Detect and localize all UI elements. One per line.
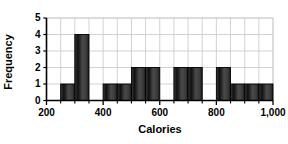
y-axis-title-text: Frequency xyxy=(2,33,14,90)
bar: 550-600: 2 xyxy=(146,68,160,101)
x-tick-label: 1,000 xyxy=(260,107,285,118)
bar-rect xyxy=(174,68,188,101)
x-axis-title-text: Calories xyxy=(138,123,181,135)
y-axis-title: Frequency xyxy=(2,33,14,90)
x-tick-label: 800 xyxy=(208,107,225,118)
bar: 950-1000: 1 xyxy=(259,84,273,101)
bar: 500-550: 2 xyxy=(131,68,145,101)
bar: 250-300: 1 xyxy=(61,84,75,101)
x-tick-label: 200 xyxy=(38,107,55,118)
bar: 900-950: 1 xyxy=(245,84,259,101)
bar: 450-500: 1 xyxy=(117,84,131,101)
bar: 850-900: 1 xyxy=(231,84,245,101)
y-tick-label: 1 xyxy=(35,78,41,89)
histogram-chart: Frequency 250-300: 1300-350: 4400-450: 1… xyxy=(0,0,288,144)
bar-rect xyxy=(146,68,160,101)
chart-canvas: Frequency 250-300: 1300-350: 4400-450: 1… xyxy=(0,0,288,144)
y-tick-label: 0 xyxy=(35,95,41,106)
y-tick-label: 5 xyxy=(35,12,41,23)
y-tick-label: 3 xyxy=(35,45,41,56)
y-tick-label: 2 xyxy=(35,62,41,73)
bar-rect xyxy=(231,84,245,101)
bar: 700-750: 2 xyxy=(188,68,202,101)
bar-rect xyxy=(245,84,259,101)
y-tick-label: 4 xyxy=(35,29,41,40)
x-axis-title: Calories xyxy=(138,123,181,135)
bar-rect xyxy=(103,84,117,101)
x-tick-label: 600 xyxy=(151,107,168,118)
bar-rect xyxy=(259,84,273,101)
bar-rect xyxy=(131,68,145,101)
x-tick-label: 400 xyxy=(95,107,112,118)
bar-rect xyxy=(117,84,131,101)
bar-rect xyxy=(75,35,89,101)
bar: 800-850: 2 xyxy=(216,68,230,101)
bar-rect xyxy=(61,84,75,101)
bar: 400-450: 1 xyxy=(103,84,117,101)
bar-rect xyxy=(188,68,202,101)
bar-rect xyxy=(216,68,230,101)
bar: 300-350: 4 xyxy=(75,35,89,101)
bar: 650-700: 2 xyxy=(174,68,188,101)
